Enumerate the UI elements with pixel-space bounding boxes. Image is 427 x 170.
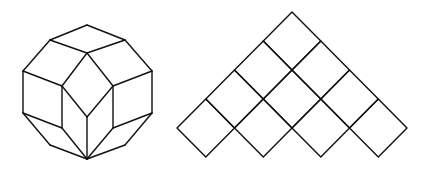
edge-line [23,71,62,86]
edge-line [87,40,125,53]
edge-line [87,53,113,86]
edge-line [62,53,87,86]
edge-line [113,71,152,86]
grid-square [321,70,379,128]
grid-square [177,99,235,157]
grid-square [263,12,321,70]
rhombic-dodecagon-figure [23,25,152,159]
grid-square [235,99,293,157]
square-pyramid-figure [177,12,407,157]
diagram-canvas [0,0,427,170]
grid-square [350,99,408,157]
edge-line [50,40,87,53]
edge-line [23,40,50,71]
grid-square [292,99,350,157]
grid-square [292,41,350,99]
edge-line [87,25,125,40]
edge-line [125,40,152,71]
grid-square [206,70,263,128]
edge-line [87,86,113,117]
edge-line [50,25,87,40]
edge-line [62,86,87,117]
grid-square [263,70,321,128]
grid-square [235,41,293,99]
